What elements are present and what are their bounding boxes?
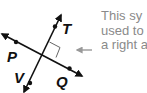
point-p <box>14 40 18 44</box>
caption-line-3: a right a <box>101 38 147 53</box>
caption-line-1: This sy <box>101 9 147 24</box>
label-p: P <box>7 48 18 65</box>
label-t: T <box>62 20 73 37</box>
right-angle-marker <box>50 42 61 58</box>
label-q: Q <box>56 73 68 90</box>
label-v: V <box>14 69 26 86</box>
caption-line-2: used to <box>101 24 147 39</box>
point-q <box>67 66 71 70</box>
point-v <box>28 81 32 85</box>
point-t <box>53 24 57 28</box>
caption-text: This sy used to a right a <box>101 9 147 53</box>
